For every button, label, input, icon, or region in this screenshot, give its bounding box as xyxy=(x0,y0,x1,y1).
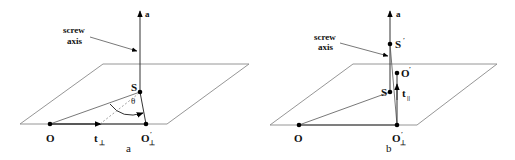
line-Sprime-Operp xyxy=(390,44,397,125)
label-O-b: O xyxy=(294,132,303,144)
label-O-perp-prime-a: ′ xyxy=(150,130,152,138)
panel-b: a screw axis S ′ O ′ S t || O O ′ ⊥ b xyxy=(270,9,497,154)
caption-b: b xyxy=(386,142,392,154)
screw-label-b: screw xyxy=(314,32,336,42)
label-O-perp-sub-a: ⊥ xyxy=(149,139,155,147)
point-S-b xyxy=(388,90,393,95)
line-O-S-a xyxy=(50,92,140,124)
point-O-prime xyxy=(395,71,400,76)
label-t-perp: t xyxy=(94,132,98,144)
axis-label-b: axis xyxy=(318,42,334,52)
label-t-parallel: t xyxy=(402,87,406,99)
axis-label-a: axis xyxy=(67,36,83,46)
point-O-perp-a xyxy=(144,122,149,127)
label-O-prime-mark: ′ xyxy=(409,65,411,73)
label-S-prime: S xyxy=(395,38,401,50)
line-O-S-b xyxy=(299,92,390,125)
label-O-perp-prime-b: ′ xyxy=(401,130,403,138)
label-t-perp-sub: ⊥ xyxy=(99,139,105,147)
label-S-prime-mark: ′ xyxy=(403,36,405,44)
point-S-prime xyxy=(388,42,393,47)
label-S-b: S xyxy=(381,86,387,98)
theta-label: θ xyxy=(131,96,135,106)
label-O-a: O xyxy=(46,132,55,144)
point-S-a xyxy=(138,90,143,95)
screw-label-a: screw xyxy=(63,25,85,35)
label-S-a: S xyxy=(131,81,137,93)
callout-pointer-a xyxy=(90,37,137,51)
caption-a: a xyxy=(126,142,131,154)
axis-vector-label-b: a xyxy=(396,9,401,19)
panel-a: a screw axis θ S O t ⊥ O ′ ⊥ a xyxy=(20,9,249,154)
point-O-perp-b xyxy=(395,123,400,128)
callout-pointer-b xyxy=(340,43,388,56)
theta-arc xyxy=(110,104,143,115)
axis-vector-label-a: a xyxy=(145,9,150,19)
line-S-Operp-a xyxy=(140,92,146,124)
point-O-a xyxy=(48,122,53,127)
label-t-parallel-sub: || xyxy=(407,94,411,102)
label-O-perp-sub-b: ⊥ xyxy=(400,139,406,147)
screw-axis-diagram: a screw axis θ S O t ⊥ O ′ ⊥ a a xyxy=(0,0,515,160)
point-O-b xyxy=(297,123,302,128)
